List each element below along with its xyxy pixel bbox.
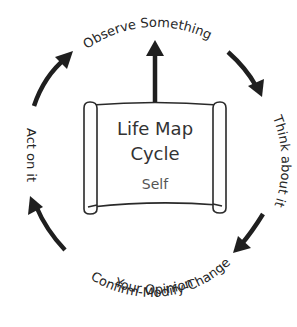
step-act-label: Act on it [24,128,39,182]
arrow-act-to-observe-icon [34,58,66,106]
cycle-svg: Life Map Cycle Self Observe Something Th… [0,0,297,327]
scroll-right-roller [213,102,226,213]
center-up-arrow-icon [146,40,164,108]
arrow-confirm-to-act-icon [36,206,65,250]
step-think-label: Think about it [270,112,294,209]
center-title-line1: Life Map [117,118,193,139]
arrow-observe-to-think-icon [228,52,256,86]
scroll-left-roller [84,102,97,214]
life-map-cycle-diagram: Life Map Cycle Self Observe Something Th… [0,0,297,327]
center-subtitle: Self [142,176,169,192]
step-observe-label: Observe Something [80,15,214,52]
center-title-line2: Cycle [130,143,179,164]
